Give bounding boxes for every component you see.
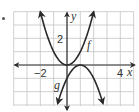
tick-label-2: 2 <box>57 33 63 45</box>
graph: y x −2 4 2 f g <box>0 0 139 112</box>
x-axis-label: x <box>126 65 133 79</box>
tick-label-4: 4 <box>117 67 123 79</box>
tick-label-neg2: −2 <box>34 67 47 79</box>
curve-label-f: f <box>87 38 92 52</box>
axis-labels: y x −2 4 2 f g <box>34 9 133 92</box>
grid-lines <box>14 12 134 106</box>
y-axis-label: y <box>70 9 77 23</box>
curve-label-g: g <box>54 78 60 92</box>
